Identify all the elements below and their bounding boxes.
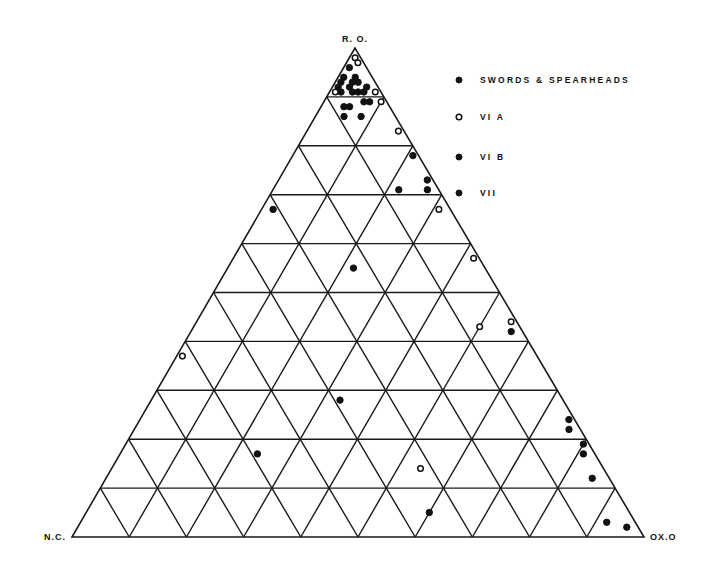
data-point-filled [580,441,586,447]
vertex-label-nc: N.C. [44,532,66,542]
ternary-diagram: R. O. N.C. OX.O SWORDS & SPEARHEADS VI A… [0,0,724,568]
data-point-open [471,255,477,261]
data-point-filled [350,265,356,271]
legend-item-swords-spearheads: SWORDS & SPEARHEADS [456,75,630,85]
legend-item-via: VI A [456,112,505,122]
legend-marker-filled [456,77,462,83]
data-point-filled [346,64,352,70]
data-point-filled [270,206,276,212]
data-point-filled [341,113,347,119]
legend-marker-open [456,114,462,120]
data-point-filled [426,509,432,515]
data-point-open [508,319,514,325]
data-point-open [373,89,379,95]
data-point-filled [589,475,595,481]
data-point-filled [508,328,514,334]
data-point-filled [424,187,430,193]
data-point-filled [361,89,367,95]
data-point-open [333,89,339,95]
data-point-filled [358,113,364,119]
data-point-filled [410,152,416,158]
grid-line-oxo [129,97,384,537]
data-point-filled [346,104,352,110]
grid-line-nc [270,195,472,537]
legend-marker-filled [456,154,462,160]
data-point-open [396,128,402,134]
data-point-open [477,324,483,330]
grid-line-oxo [472,390,557,537]
data-point-open [355,60,361,66]
vertex-label-ro: R. O. [342,34,368,44]
grid-line-nc [157,390,244,537]
data-point-filled [604,519,610,525]
legend-label: VII [480,188,497,198]
data-point-open [418,466,424,472]
data-point-open [436,207,442,213]
legend-label: SWORDS & SPEARHEADS [480,75,630,85]
triangular-grid [100,97,615,537]
data-point-filled [337,397,343,403]
legend-marker-filled [456,190,462,196]
data-point-filled [424,177,430,183]
grid-line-nc [327,97,587,537]
data-point-filled [355,79,361,85]
legend-item-vii: VII [456,188,497,198]
legend-item-vib: VI B [456,152,505,162]
data-point-filled [566,426,572,432]
grid-line-oxo [587,488,615,537]
legend-label: VI B [480,152,505,162]
data-point-filled [566,416,572,422]
data-point-filled [396,187,402,193]
data-point-filled [580,451,586,457]
data-point-filled [254,451,260,457]
data-point-filled [624,524,630,530]
grid-line-nc [100,488,129,537]
data-point-open [180,353,186,359]
data-point-filled [349,89,355,95]
grid-line-oxo [244,195,442,537]
legend: SWORDS & SPEARHEADS VI A VI B VII [456,75,630,198]
data-point-filled [366,99,372,105]
grid-line-nc [214,293,359,538]
data-point-open [378,99,384,105]
vertex-label-oxo: OX.O [650,532,677,542]
legend-label: VI A [480,112,505,122]
